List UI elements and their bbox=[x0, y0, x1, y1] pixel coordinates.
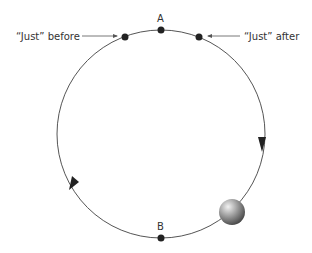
label-just-after: “Just” after bbox=[244, 31, 300, 42]
label-just-before: “Just” before bbox=[16, 31, 80, 42]
point-b-dot bbox=[158, 235, 165, 242]
circular-motion-diagram: A B “Just” before “Just” after bbox=[0, 0, 312, 253]
label-a: A bbox=[157, 13, 164, 24]
after-pointer-arrowhead bbox=[207, 34, 212, 38]
point-a-dot bbox=[158, 27, 165, 34]
ball bbox=[219, 199, 245, 225]
label-b: B bbox=[157, 221, 164, 232]
before-pointer-arrowhead bbox=[113, 34, 118, 38]
direction-arrow-left bbox=[69, 176, 79, 190]
just-after-dot bbox=[196, 34, 203, 41]
just-before-dot bbox=[122, 34, 129, 41]
